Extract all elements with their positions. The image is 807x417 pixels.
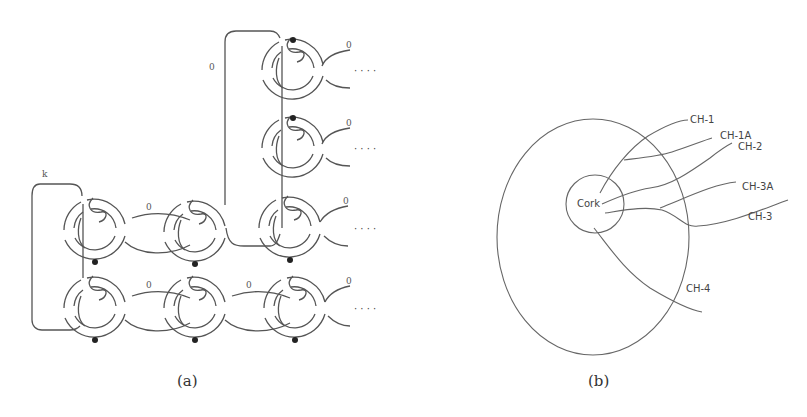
link-curve [226,228,280,246]
svg-text:0: 0 [346,276,352,286]
channel-ch-1a [624,138,712,160]
ring-top-2 [262,116,323,177]
svg-text:· · · ·: · · · · [354,303,376,314]
ch-4-label: CH-4 [686,283,710,294]
ring-r2-c1 [64,276,125,337]
dot-marker [192,337,198,343]
dot-marker [92,337,98,343]
cork-label: Cork [577,198,600,209]
ch-3-label: CH-3 [748,211,772,222]
link-curve [132,292,190,298]
channel-ch-4 [594,228,702,312]
dot-marker [92,259,98,265]
dot-marker [290,115,296,121]
channel-ch-3a [660,182,736,208]
link-curve [225,320,290,331]
ring-r2-c3 [264,276,325,337]
link-curve [125,320,190,331]
channel-ch-2 [602,143,732,204]
zero-label: 0 [246,280,252,290]
ring-top-1 [262,38,323,99]
ring-r2-c2 [164,276,225,337]
panel-a-diagram: k 0 0 0 0 [32,31,376,343]
link-curve [232,292,290,298]
svg-text:· · · ·: · · · · [354,223,376,234]
dot-marker [287,257,293,263]
ch-1-label: CH-1 [690,114,714,125]
zero-label: 0 [146,280,152,290]
svg-text:· · · ·: · · · · [354,143,376,154]
zero-framed-bracket [225,31,280,205]
caption-b: (b) [588,372,609,390]
right-exit-row1: 0 · · · · [320,196,376,246]
ch-2-label: CH-2 [738,141,762,152]
ch-3a-label: CH-3A [742,181,773,192]
dot-marker [290,37,296,43]
dot-marker [292,337,298,343]
svg-text:0: 0 [346,40,352,50]
ring-r1-c1 [64,198,125,259]
svg-text:· · · ·: · · · · [354,65,376,76]
panel-b-diagram: Cork CH-1 CH-1A CH-2 CH-3A CH-3 CH-4 [497,114,788,355]
right-exit-row2: 0 · · · · [325,276,376,326]
ch-1a-label: CH-1A [720,130,751,141]
k-label: k [42,169,48,179]
ring-r1-c3 [259,196,320,257]
zero-label: 0 [209,62,215,72]
svg-text:0: 0 [343,196,349,206]
zero-label: 0 [146,202,152,212]
caption-a: (a) [177,372,198,390]
figure-canvas: k 0 0 0 0 [0,0,807,417]
svg-text:0: 0 [346,118,352,128]
right-exit-top1: 0 · · · · [322,40,376,88]
right-exit-top2: 0 · · · · [322,118,376,166]
dot-marker [192,261,198,267]
